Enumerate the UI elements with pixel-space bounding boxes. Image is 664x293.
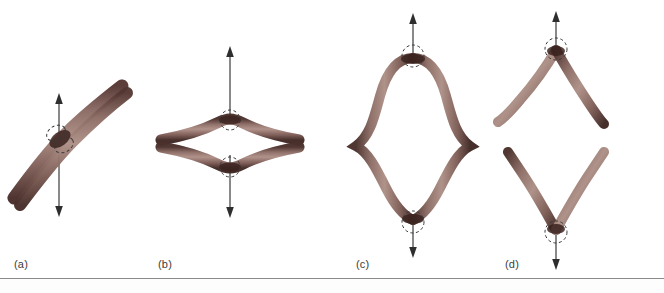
panel-a	[0, 0, 150, 270]
panel-d-graphic	[480, 0, 655, 270]
panel-label-b: (b)	[158, 258, 172, 270]
panel-b-graphic	[145, 0, 315, 270]
chromatid-rods-b	[161, 116, 299, 172]
figure-footer-band	[0, 279, 664, 293]
chromatid-rods-c	[356, 54, 470, 224]
panel-label-c: (c)	[356, 258, 369, 270]
figure-canvas: (a) (b) (c) (d)	[0, 0, 664, 293]
panel-c	[330, 0, 495, 270]
panel-label-a: (a)	[14, 258, 28, 270]
panel-label-d: (d)	[505, 258, 519, 270]
panel-b	[145, 0, 315, 270]
chromatid-rods-a	[14, 86, 127, 205]
centromere-marker-circles-c	[402, 45, 424, 233]
panel-c-graphic	[330, 0, 495, 270]
panel-d	[480, 0, 655, 270]
panel-a-graphic	[0, 0, 150, 270]
spindle-axis-arrow-b	[226, 46, 234, 218]
lower-chevron-rods-d	[508, 152, 604, 234]
upper-chevron-rods-d	[498, 46, 604, 124]
